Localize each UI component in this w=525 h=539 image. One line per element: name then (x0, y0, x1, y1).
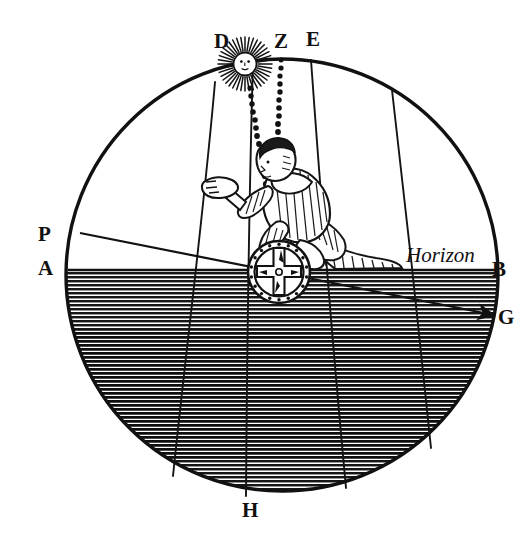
label-e: E (306, 29, 320, 50)
label-b: B (492, 259, 506, 280)
label-d: D (214, 31, 229, 52)
astronomical-diagram-figure: D Z E P A B G H Horizon (0, 0, 525, 539)
label-horizon: Horizon (406, 243, 475, 268)
label-z: Z (274, 31, 288, 52)
label-a: A (38, 258, 53, 279)
compass-dial-icon (248, 241, 310, 303)
label-h: H (242, 500, 258, 521)
diagram-canvas (0, 0, 525, 539)
label-p: P (38, 224, 51, 245)
label-g: G (498, 307, 514, 328)
